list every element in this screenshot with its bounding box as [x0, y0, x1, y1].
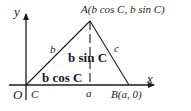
side-a-label: a [86, 88, 92, 99]
x-axis-label: x [147, 72, 153, 85]
origin-label: O [13, 88, 22, 101]
vertex-b-label: B(a, 0) [111, 89, 142, 100]
side-c-label: c [114, 43, 119, 54]
projection-label: b cos C [42, 71, 82, 84]
height-label: b sin C [68, 51, 107, 64]
triangle-diagram: y x O C A(b cos C, b sin C) B(a, 0) b c … [0, 0, 191, 111]
y-axis-label: y [14, 5, 20, 18]
vertex-c-label: C [31, 89, 38, 100]
vertex-a-label: A(b cos C, b sin C) [81, 4, 165, 15]
side-b-label: b [50, 44, 56, 55]
